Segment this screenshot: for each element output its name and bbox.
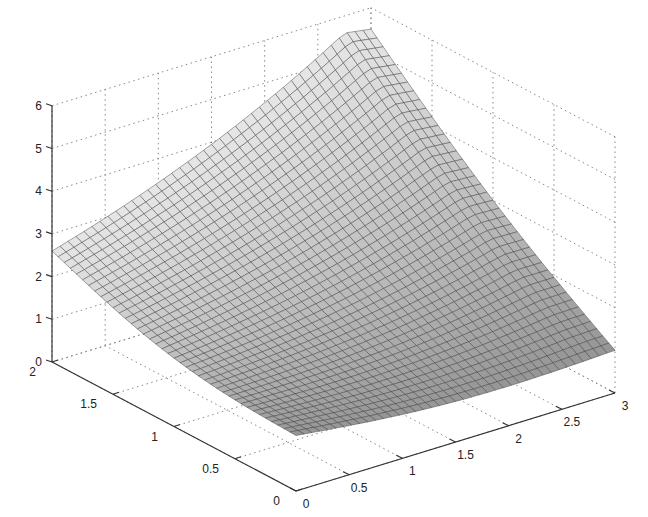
y-tick-label: 0	[273, 494, 280, 508]
y-tick-label: 0.5	[202, 462, 219, 476]
z-tick-label: 2	[35, 270, 42, 284]
y-tick-label: 1.5	[80, 397, 97, 411]
z-tick-label: 1	[35, 312, 42, 326]
z-tick-label: 5	[35, 142, 42, 156]
z-tick-label: 6	[35, 99, 42, 113]
x-tick-label: 0	[303, 497, 310, 511]
x-tick-label: 3	[622, 399, 629, 413]
z-tick-label: 0	[35, 355, 42, 369]
x-tick-label: 2.5	[563, 415, 580, 429]
y-tick-label: 2	[29, 365, 36, 379]
z-tick-label: 3	[35, 227, 42, 241]
y-tick-label: 1	[151, 430, 158, 444]
x-tick-label: 1.5	[457, 448, 474, 462]
z-tick-label: 4	[35, 184, 42, 198]
surface-mesh	[52, 29, 615, 435]
x-tick-label: 1	[409, 464, 416, 478]
surface-plot: 012345600.511.5200.511.522.53	[0, 0, 648, 517]
x-tick-label: 2	[515, 432, 522, 446]
x-tick-label: 0.5	[351, 481, 368, 495]
